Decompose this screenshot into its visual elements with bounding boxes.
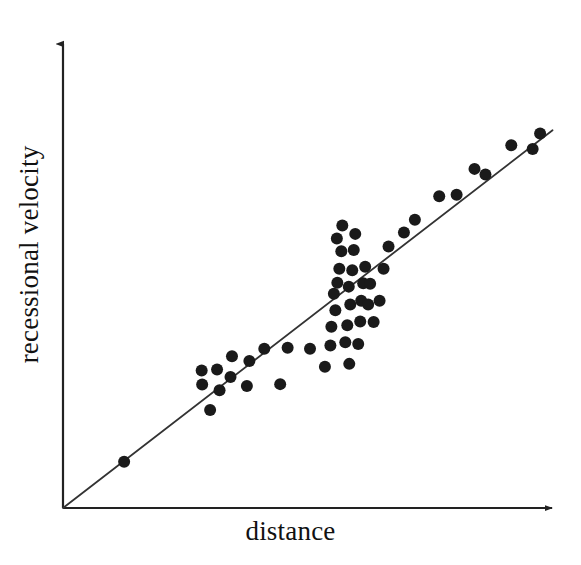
data-point xyxy=(211,364,223,376)
data-point xyxy=(328,288,340,300)
data-point xyxy=(343,358,355,370)
data-point xyxy=(433,190,445,202)
data-point xyxy=(374,295,386,307)
data-point xyxy=(226,350,238,362)
y-axis-label-container: recessional velocity xyxy=(0,0,60,508)
hubble-diagram-figure: recessional velocity distance xyxy=(0,0,581,565)
y-axis-label: recessional velocity xyxy=(15,145,46,363)
data-point xyxy=(346,264,358,276)
data-point xyxy=(341,319,353,331)
data-point xyxy=(354,315,366,327)
data-point xyxy=(224,371,236,383)
data-point xyxy=(352,338,364,350)
data-point xyxy=(469,163,481,175)
data-point xyxy=(344,299,356,311)
data-point xyxy=(362,299,374,311)
data-point xyxy=(339,336,351,348)
data-point xyxy=(378,263,390,275)
data-point xyxy=(282,342,294,354)
x-axis-label: distance xyxy=(0,516,581,547)
regression-line-group xyxy=(63,130,553,508)
data-point xyxy=(534,128,546,140)
data-point xyxy=(214,384,226,396)
data-point xyxy=(336,219,348,231)
data-point xyxy=(319,361,331,373)
data-point xyxy=(331,277,343,289)
data-point xyxy=(398,226,410,238)
data-point xyxy=(243,355,255,367)
scatter-plot-canvas xyxy=(0,0,581,565)
data-point xyxy=(527,143,539,155)
data-point xyxy=(258,343,270,355)
data-point xyxy=(196,364,208,376)
data-point xyxy=(324,340,336,352)
data-point xyxy=(368,316,380,328)
data-point xyxy=(343,281,355,293)
data-point xyxy=(304,343,316,355)
data-point xyxy=(505,139,517,151)
data-point xyxy=(479,169,491,181)
data-point xyxy=(348,244,360,256)
data-point xyxy=(333,263,345,275)
data-point xyxy=(349,228,361,240)
data-point xyxy=(196,379,208,391)
data-point xyxy=(359,261,371,273)
data-point xyxy=(451,189,463,201)
regression-line xyxy=(63,130,553,508)
data-point xyxy=(364,278,376,290)
axes-group xyxy=(63,44,552,508)
data-point xyxy=(241,380,253,392)
data-point xyxy=(335,245,347,257)
data-point xyxy=(409,214,421,226)
data-point xyxy=(204,404,216,416)
data-point xyxy=(325,321,337,333)
data-point xyxy=(331,233,343,245)
data-point xyxy=(118,456,130,468)
data-point xyxy=(274,378,286,390)
data-point xyxy=(329,304,341,316)
data-point xyxy=(383,241,395,253)
